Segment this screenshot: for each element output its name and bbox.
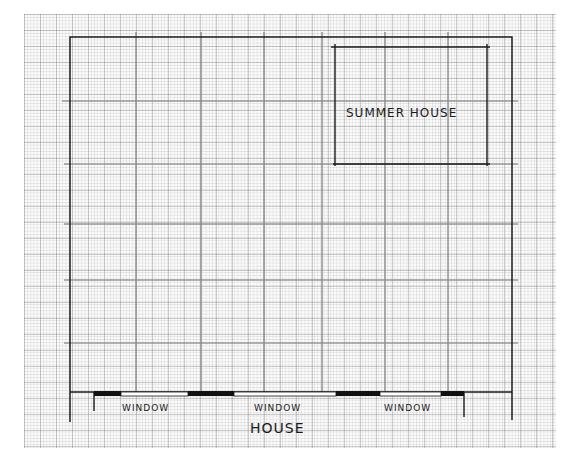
summer-house-label: SUMMER HOUSE — [346, 106, 457, 120]
window-label-1: WINDOW — [122, 403, 169, 413]
window-label-3: WINDOW — [384, 403, 431, 413]
summer-house-outline — [331, 44, 490, 166]
house-label: HOUSE — [250, 420, 305, 436]
window-label-2: WINDOW — [254, 403, 301, 413]
pencil-grid-horizontal — [62, 101, 518, 343]
pencil-grid-vertical — [136, 32, 448, 392]
garden-plan: SUMMER HOUSE WINDOW WINDOW WINDOW HOUSE — [0, 0, 575, 465]
